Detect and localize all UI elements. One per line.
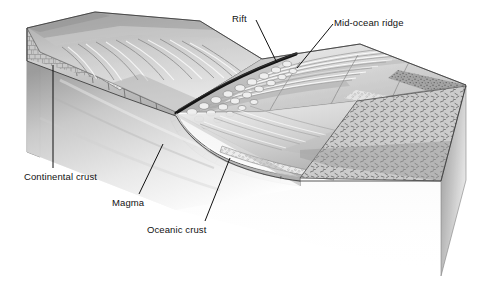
label-mid-ocean-ridge: Mid-ocean ridge	[334, 17, 404, 28]
label-rift: Rift	[232, 13, 247, 24]
leader-rift	[256, 20, 277, 63]
label-oceanic-crust: Oceanic crust	[147, 224, 206, 235]
label-continental-crust: Continental crust	[24, 171, 97, 182]
block-diagram-illustration	[0, 0, 495, 290]
label-magma: Magma	[112, 197, 144, 208]
geology-block-diagram-figure: Rift Mid-ocean ridge Continental crust M…	[0, 0, 495, 290]
